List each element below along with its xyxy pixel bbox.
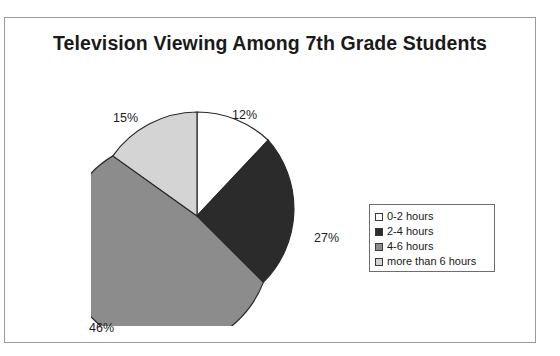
pie-value-label-2-4-hours: 27% <box>314 231 339 245</box>
legend-swatch-icon-0-2-hours <box>375 213 383 221</box>
pie-svg <box>91 110 307 326</box>
legend-label-2-4-hours: 2-4 hours <box>387 226 433 237</box>
legend-label-4-6-hours: 4-6 hours <box>387 241 433 252</box>
chart-frame: Television Viewing Among 7th Grade Stude… <box>4 17 536 343</box>
legend-swatch-icon-more-than-6-hours <box>375 258 383 266</box>
chart-title: Television Viewing Among 7th Grade Stude… <box>5 32 535 55</box>
legend-swatch-icon-2-4-hours <box>375 228 383 236</box>
legend-swatch-icon-4-6-hours <box>375 243 383 251</box>
legend-label-0-2-hours: 0-2 hours <box>387 211 433 222</box>
chart-legend: 0-2 hours 2-4 hours 4-6 hours more than … <box>369 204 495 272</box>
legend-item-more-than-6-hours[interactable]: more than 6 hours <box>375 254 489 269</box>
legend-item-4-6-hours[interactable]: 4-6 hours <box>375 239 489 254</box>
pie-value-label-more-than-6-hours: 15% <box>113 111 138 125</box>
legend-item-0-2-hours[interactable]: 0-2 hours <box>375 209 489 224</box>
legend-item-2-4-hours[interactable]: 2-4 hours <box>375 224 489 239</box>
legend-label-more-than-6-hours: more than 6 hours <box>387 256 476 267</box>
pie-value-label-0-2-hours: 12% <box>232 108 257 122</box>
pie-value-label-4-6-hours: 46% <box>89 321 114 335</box>
pie-chart <box>91 110 307 326</box>
